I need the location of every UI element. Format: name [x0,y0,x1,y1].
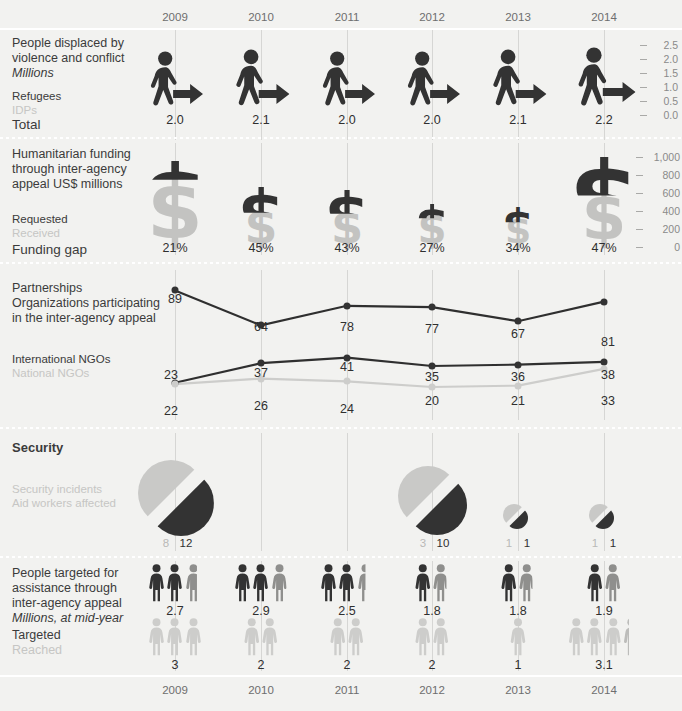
security-workers-2009: 12 [180,537,193,549]
infographic-page: 2009 2010 2011 2012 2013 2014 [0,0,682,711]
partnerships-total-2009: 89 [168,292,182,306]
person-icon [623,618,640,656]
axis-tick-2-5: 2.5 [648,39,678,51]
targeted-figures-2011 [320,564,374,602]
displaced-value-2011: 2.0 [338,113,355,127]
displaced-figure-2011 [320,51,362,114]
security-workers-2014: 1 [610,537,616,549]
partnerships-intl-2010: 37 [254,366,268,380]
partnerships-dot-total-2013 [515,318,522,325]
displaced-figure-2014 [576,47,621,114]
security-workers-2012: 10 [437,537,450,549]
targeted-figures-2013 [500,564,536,602]
reached-figures-2009 [148,618,202,656]
reached-figures-2010 [243,618,279,656]
person-icon [433,564,450,602]
person-icon [185,564,202,602]
rule-bottom [0,675,682,677]
arrow-right-icon [602,81,635,103]
year-header-2011: 2011 [335,11,360,23]
arrow-right-icon [430,83,460,105]
partnerships-intl-2012: 35 [425,370,439,384]
person-icon [357,564,374,602]
displaced-value-2012: 2.0 [423,113,440,127]
displaced-value-2010: 2.1 [252,113,269,127]
funding-gap-2014: 47% [591,241,616,255]
person-icon [568,618,585,656]
displaced-subtitle: Millions [12,66,54,81]
person-icon [605,564,622,602]
reached-value-2011: 2 [344,658,351,672]
rule-funding-bottom [0,262,682,264]
funding-gap-label: Funding gap [12,242,87,257]
funding-gap-2011: 43% [334,241,359,255]
partnerships-intl-2014: 38 [601,368,615,382]
person-icon [586,618,603,656]
security-incidents-2009: 8 [163,537,169,549]
year-header-2013: 2013 [505,11,531,23]
partnerships-natl-2013: 21 [511,394,525,408]
person-icon [320,564,337,602]
person-icon [185,618,202,656]
reached-figures-2013 [509,618,526,656]
targeted-legend-targeted: Targeted [12,628,61,643]
arrow-right-icon [259,83,290,105]
person-icon [605,618,622,656]
person-icon [148,564,165,602]
security-title: Security [12,440,63,455]
security-incidents-2014: 1 [592,537,598,549]
displaced-figure-2010 [233,49,276,114]
year-footer-2013: 2013 [505,684,531,696]
targeted-figures-2010 [234,564,288,602]
displaced-figure-2013 [490,49,533,114]
partnerships-dot-intl-2014 [601,358,608,365]
person-icon [586,564,603,602]
rule-security-bottom [0,556,682,558]
funding-legend-requested: Requested [12,212,68,227]
person-icon [166,618,183,656]
partnerships-natl-2009: 22 [164,404,178,418]
axis-tick-0-0: 0.0 [648,109,678,121]
funding-gap-2009: 21% [162,241,187,255]
rule-top [0,28,682,30]
targeted-value-2014: 1.9 [595,604,612,618]
axis-tick-400: 400 [644,205,680,217]
axis-tick-0: 0 [644,241,680,253]
axis-tick-0-5: 0.5 [648,95,678,107]
security-pie-2012 [398,466,472,540]
person-icon [271,564,288,602]
displaced-title: People displaced by violence and conflic… [12,36,162,66]
partnerships-dot-natl-2011 [344,378,351,385]
displaced-figure-2009 [148,51,190,114]
person-icon [338,564,355,602]
partnerships-natl-2012: 20 [425,394,439,408]
targeted-figures-2014 [586,564,622,602]
targeted-subtitle: Millions, at mid-year [12,611,123,626]
axis-tick-1-5: 1.5 [648,67,678,79]
partnerships-dot-total-2011 [344,302,351,309]
person-icon [509,618,526,656]
arrow-right-icon [173,83,203,105]
partnerships-dot-intl-2012 [429,363,436,370]
axis-tick-200: 200 [644,223,680,235]
reached-value-2009: 3 [172,658,179,672]
targeted-figures-2012 [414,564,450,602]
person-icon [433,618,450,656]
security-workers-2013: 1 [524,537,530,549]
reached-value-2012: 2 [429,658,436,672]
rule-displaced-bottom [0,137,682,139]
person-icon [252,564,269,602]
partnerships-dot-natl-2012 [429,384,436,391]
axis-tick-800: 800 [644,169,680,181]
partnerships-total-2013: 67 [511,327,525,341]
targeted-value-2012: 1.8 [423,604,440,618]
year-footer-2014: 2014 [591,684,617,696]
partnerships-natl-2011: 24 [340,402,354,416]
funding-gap-2010: 45% [248,241,273,255]
year-footer-2012: 2012 [419,684,445,696]
partnerships-dot-total-2012 [429,304,436,311]
person-icon [414,564,431,602]
year-footer-2011: 2011 [335,684,360,696]
reached-value-2010: 2 [258,658,265,672]
partnerships-dot-total-2014 [601,298,608,305]
